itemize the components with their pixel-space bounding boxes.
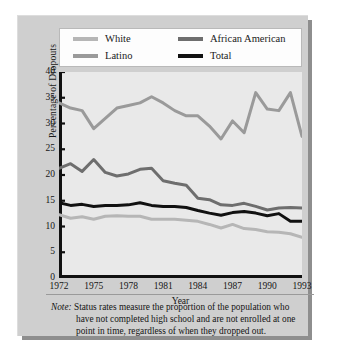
x-axis-tick-label: 1993 [287,282,317,292]
y-axis-tick-label: 40 [35,67,55,77]
legend-item-african-american: African American [172,31,300,48]
y-axis-tick-label: 35 [35,93,55,103]
note-line-3: point in time, regardless of when they d… [51,325,309,337]
series-line-latino [59,93,302,139]
x-axis-tick-label: 1975 [79,282,109,292]
legend-label: Latino [105,51,132,62]
x-axis-tick-label: 1990 [252,282,282,292]
x-axis-tick-label: 1972 [44,282,74,292]
note-line-1: Status rates measure the proportion of t… [72,302,290,312]
y-axis-tick-label: 5 [35,247,55,257]
y-axis-tick-label: 10 [35,222,55,232]
chart-legend: WhiteAfrican AmericanLatinoTotal [59,28,302,67]
legend-label: African American [210,34,286,45]
chart-lines [59,72,302,278]
y-axis-tick-label: 25 [35,144,55,154]
legend-swatch-icon [178,37,203,41]
note-divider [46,294,314,295]
figure-note: Note: Status rates measure the proportio… [51,301,309,338]
x-axis-tick-label: 1987 [218,282,248,292]
legend-item-latino: Latino [60,48,172,65]
legend-label: White [105,34,131,45]
legend-item-white: White [60,31,172,48]
legend-label: Total [210,51,231,62]
series-line-white [59,215,302,238]
legend-swatch-icon [178,54,203,58]
y-axis-tick-label: 15 [35,196,55,206]
note-line-2: have not completed high school and are n… [51,313,309,325]
legend-swatch-icon [73,37,98,41]
chart-panel: WhiteAfrican AmericanLatinoTotal Percent… [17,15,308,336]
axis-spines [61,72,303,277]
legend-swatch-icon [73,54,98,58]
figure-container: WhiteAfrican AmericanLatinoTotal Percent… [0,0,344,361]
series-line-african-american [59,160,302,210]
y-axis-tick-label: 20 [35,170,55,180]
x-axis-tick-label: 1984 [183,282,213,292]
y-axis-tick-label: 30 [35,119,55,129]
legend-item-total: Total [172,48,300,65]
x-axis-tick-label: 1978 [113,282,143,292]
x-axis-tick-label: 1981 [148,282,178,292]
plot-wrapper: Percentage of Dropouts Year 051015202530… [59,72,302,278]
note-lead: Note: [51,302,72,312]
